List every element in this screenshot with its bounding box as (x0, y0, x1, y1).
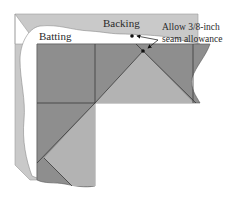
backing-edge-point (130, 34, 134, 38)
label-note-line1: Allow 3/8-inch (162, 22, 220, 32)
label-backing: Backing (103, 17, 140, 29)
label-note-line2: seam allowance (162, 34, 222, 44)
quilt-corner-diagram: Backing Batting Allow 3/8-inch seam allo… (0, 0, 244, 199)
corner-point (141, 49, 145, 53)
label-batting: Batting (39, 30, 72, 42)
